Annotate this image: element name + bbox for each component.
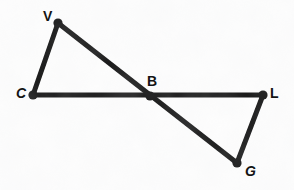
vertex-dot-B: [145, 91, 154, 100]
segment-V-C: [33, 23, 58, 95]
vertex-label-C: C: [16, 86, 26, 100]
vertex-dot-V: [53, 18, 62, 27]
segment-L-G: [237, 95, 263, 163]
vertex-label-L: L: [270, 86, 279, 100]
figure-drawing: [0, 0, 294, 190]
vertex-label-V: V: [43, 9, 52, 23]
vertex-label-B: B: [147, 74, 157, 88]
vertex-dot-C: [28, 90, 37, 99]
vertex-dot-G: [232, 158, 241, 167]
vertex-dot-L: [258, 90, 267, 99]
vertex-label-G: G: [245, 164, 256, 178]
geometry-figure-canvas: V C B L G: [0, 0, 294, 190]
